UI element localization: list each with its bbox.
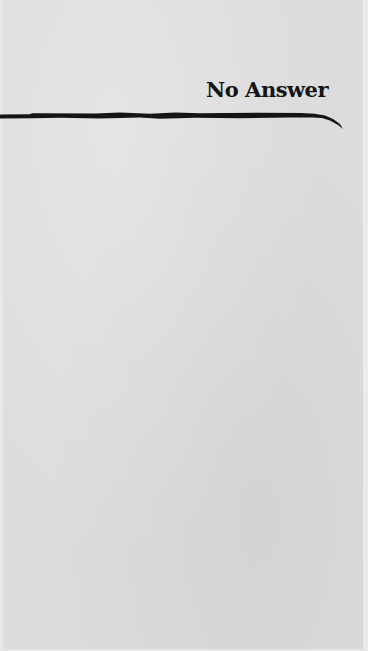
page-edge-right: [363, 0, 368, 651]
scanned-page: No Answer: [0, 0, 368, 651]
page-edge-left: [0, 0, 3, 651]
chapter-title: No Answer: [206, 79, 328, 100]
decorative-swash-rule: [0, 108, 345, 132]
